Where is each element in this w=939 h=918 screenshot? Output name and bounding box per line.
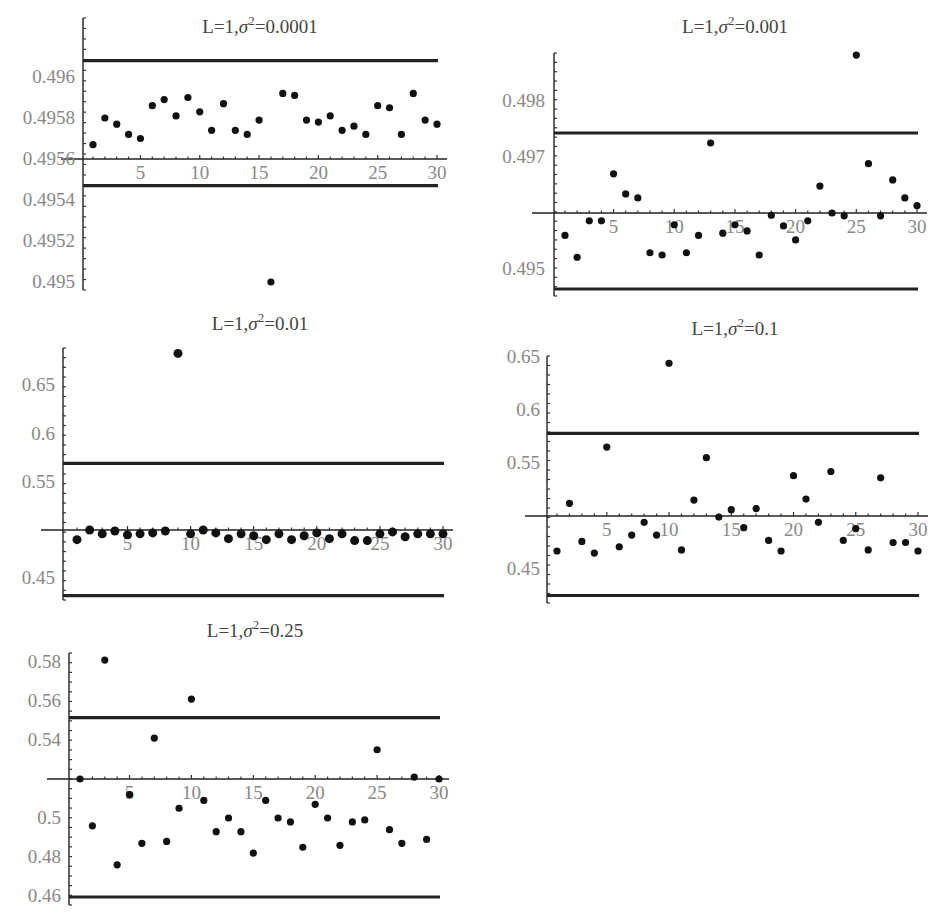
data-point	[388, 527, 397, 536]
data-point	[349, 818, 356, 825]
data-point	[683, 249, 690, 256]
data-point	[137, 135, 144, 142]
data-point	[566, 500, 573, 507]
data-point	[339, 127, 346, 134]
y-tick-label: 0.45	[507, 558, 540, 579]
y-tick-label: 0.498	[502, 90, 545, 111]
y-tick-label: 0.4956	[23, 148, 75, 169]
data-point	[123, 530, 132, 539]
data-point	[790, 472, 797, 479]
data-point	[184, 94, 191, 101]
data-point	[386, 826, 393, 833]
data-point	[828, 209, 835, 216]
data-point	[653, 531, 660, 538]
chart-panel-sigma-0.1: L=1,σ2=0.1510152025300.450.550.60.65	[507, 315, 928, 603]
data-point	[255, 116, 262, 123]
data-point	[312, 801, 319, 808]
data-point	[841, 212, 848, 219]
data-point	[267, 278, 274, 285]
data-point	[715, 513, 722, 520]
data-point	[232, 127, 239, 134]
data-point	[199, 526, 208, 535]
data-point	[303, 116, 310, 123]
data-point	[913, 202, 920, 209]
data-point	[374, 102, 381, 109]
data-point	[598, 217, 605, 224]
data-point	[350, 536, 359, 545]
data-point	[163, 838, 170, 845]
data-point	[361, 816, 368, 823]
data-point	[753, 505, 760, 512]
y-tick-label: 0.495	[502, 258, 545, 279]
chart-panel-sigma-0.0001: L=1,σ2=0.0001510152025300.4950.49520.495…	[23, 13, 447, 292]
data-point	[136, 529, 145, 538]
data-point	[338, 529, 347, 538]
y-tick-label: 0.6	[516, 399, 540, 420]
data-point	[756, 251, 763, 258]
data-point	[641, 519, 648, 526]
x-tick-label: 10	[660, 519, 679, 540]
data-point	[374, 746, 381, 753]
data-point	[300, 531, 309, 540]
data-point	[777, 547, 784, 554]
data-point	[728, 506, 735, 513]
data-point	[200, 797, 207, 804]
data-point	[901, 194, 908, 201]
data-point	[665, 360, 672, 367]
data-point	[375, 529, 384, 538]
y-tick-label: 0.58	[28, 651, 61, 672]
data-point	[865, 546, 872, 553]
data-point	[865, 160, 872, 167]
y-tick-label: 0.56	[28, 690, 61, 711]
data-point	[792, 236, 799, 243]
data-point	[765, 537, 772, 544]
data-point	[703, 454, 710, 461]
data-point	[336, 842, 343, 849]
control-charts-figure: L=1,σ2=0.0001510152025300.4950.49520.495…	[0, 0, 939, 918]
data-point	[398, 840, 405, 847]
data-point	[719, 230, 726, 237]
data-point	[161, 526, 170, 535]
data-point	[731, 221, 738, 228]
chart-panel-sigma-0.25: L=1,σ2=0.25510152025300.460.480.50.540.5…	[28, 617, 449, 906]
data-point	[324, 814, 331, 821]
data-point	[250, 850, 257, 857]
y-tick-label: 0.48	[28, 846, 61, 867]
data-point	[411, 773, 418, 780]
data-point	[877, 474, 884, 481]
x-tick-label: 5	[136, 162, 146, 183]
data-point	[274, 814, 281, 821]
data-point	[616, 543, 623, 550]
data-point	[211, 528, 220, 537]
data-point	[237, 529, 246, 538]
x-tick-label: 20	[309, 162, 328, 183]
data-point	[877, 212, 884, 219]
data-point	[401, 532, 410, 541]
data-point	[175, 805, 182, 812]
data-point	[840, 537, 847, 544]
data-point	[561, 232, 568, 239]
data-point	[213, 828, 220, 835]
chart-panel-sigma-0.01: L=1,σ2=0.01510152025300.450.550.60.65	[22, 310, 453, 600]
data-point	[707, 139, 714, 146]
y-tick-label: 0.497	[502, 146, 545, 167]
data-point	[225, 814, 232, 821]
data-point	[208, 127, 215, 134]
data-point	[244, 131, 251, 138]
x-tick-label: 25	[368, 782, 387, 803]
x-tick-label: 10	[182, 782, 201, 803]
data-point	[363, 536, 372, 545]
data-point	[220, 100, 227, 107]
data-point	[76, 775, 83, 782]
chart-title: L=1,σ2=0.0001	[202, 13, 317, 37]
data-point	[690, 497, 697, 504]
x-tick-label: 15	[244, 782, 263, 803]
data-point	[628, 531, 635, 538]
data-point	[161, 96, 168, 103]
data-point	[148, 528, 157, 537]
data-point	[262, 535, 271, 544]
data-point	[196, 108, 203, 115]
data-point	[413, 529, 422, 538]
data-point	[426, 529, 435, 538]
data-point	[852, 525, 859, 532]
